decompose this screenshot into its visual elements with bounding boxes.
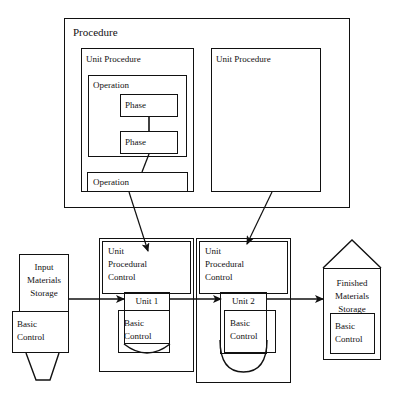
unit-procedure-right-label: Unit Procedure	[216, 53, 271, 66]
finished-storage-roof	[323, 240, 381, 268]
operation-lower-label: Operation	[93, 176, 129, 189]
input-materials-storage-label: Input Materials Storage	[19, 261, 69, 299]
finished-materials-storage-label: Finished Materials Storage	[323, 277, 381, 315]
unit-procedure-right-box	[211, 48, 321, 192]
phase-label-2: Phase	[125, 136, 146, 149]
unit-procedure-left-label: Unit Procedure	[86, 53, 141, 66]
input-storage-basic-control-label: Basic Control	[17, 318, 45, 344]
batch-control-diagram: Procedure Unit Procedure Operation Phase…	[0, 0, 396, 397]
unit-1-label: Unit 1	[124, 295, 170, 308]
unit-2-procedural-control-label: Unit Procedural Control	[205, 245, 244, 283]
input-storage-hopper-cone	[26, 353, 59, 380]
unit-1-basic-control-label: Basic Control	[124, 317, 152, 343]
phase-label-1: Phase	[125, 99, 146, 112]
procedure-label: Procedure	[73, 25, 118, 41]
unit-1-procedural-control-label: Unit Procedural Control	[108, 245, 147, 283]
unit-2-label: Unit 2	[220, 295, 267, 308]
finished-storage-basic-control-label: Basic Control	[335, 320, 363, 346]
unit-2-basic-control-label: Basic Control	[230, 317, 258, 343]
operation-upper-label: Operation	[93, 79, 129, 92]
